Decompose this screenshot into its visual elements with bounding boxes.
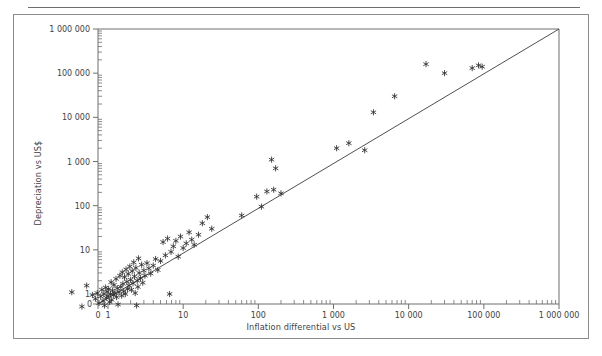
x-tick-label-100: 100 bbox=[251, 311, 266, 320]
top-divider-rule bbox=[28, 7, 580, 8]
scatter-plot-canvas bbox=[14, 15, 590, 340]
y-tick-label-100: 100 bbox=[48, 201, 90, 210]
figure-page: Depreciation vs US$ 001110101001001 0001… bbox=[0, 0, 602, 356]
y-axis-title: Depreciation vs US$ bbox=[33, 123, 43, 243]
x-tick-label-10000: 10 000 bbox=[395, 311, 423, 320]
y-tick-label-100000: 100 000 bbox=[48, 69, 90, 78]
x-tick-label-10: 10 bbox=[178, 311, 188, 320]
data-point-group bbox=[69, 61, 484, 309]
y-tick-label-1000000: 1 000 000 bbox=[48, 25, 90, 34]
y-tick-label-1: 1 bbox=[48, 290, 90, 299]
x-tick-label-1: 1 bbox=[105, 311, 110, 320]
x-tick-label-1000000: 1 000 000 bbox=[539, 311, 580, 320]
x-tick-label-100000: 100 000 bbox=[467, 311, 500, 320]
x-tick-label-1000: 1 000 bbox=[322, 311, 345, 320]
x-axis-title: Inflation differential vs US bbox=[0, 322, 602, 332]
y-tick-label-10: 10 bbox=[48, 245, 90, 254]
y-tick-label-1000: 1 000 bbox=[48, 157, 90, 166]
chart-figure-frame: Depreciation vs US$ 001110101001001 0001… bbox=[13, 14, 589, 339]
y-tick-label-0: 0 bbox=[50, 300, 92, 309]
y-tick-label-10000: 10 000 bbox=[48, 113, 90, 122]
x-tick-label-0: 0 bbox=[95, 311, 100, 320]
